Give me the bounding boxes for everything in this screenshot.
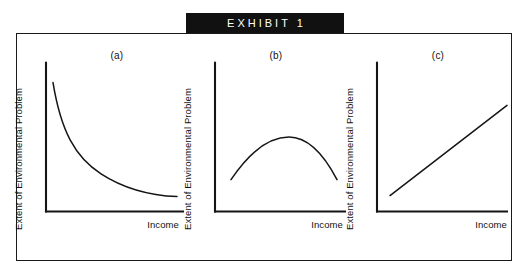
figure-frame: (a) Extent of Environmental Problem Inco… xyxy=(16,33,512,261)
exhibit-banner-label: EXHIBIT 1 xyxy=(224,18,306,29)
exhibit-banner: EXHIBIT 1 xyxy=(186,13,344,34)
panel-c-plot xyxy=(351,34,513,260)
panel-b-curve xyxy=(231,137,337,180)
chart-panel-b: (b) Extent of Environmental Problem Inco… xyxy=(189,34,351,260)
panel-c-curve xyxy=(390,105,507,195)
panel-b-plot xyxy=(189,34,351,260)
panel-a-plot xyxy=(17,34,189,260)
chart-panel-c: (c) Extent of Environmental Problem Inco… xyxy=(351,34,513,260)
exhibit-screenshot: EXHIBIT 1 (a) Extent of Environmental Pr… xyxy=(0,0,530,279)
chart-panel-a: (a) Extent of Environmental Problem Inco… xyxy=(17,34,189,260)
panel-a-curve xyxy=(53,83,177,197)
